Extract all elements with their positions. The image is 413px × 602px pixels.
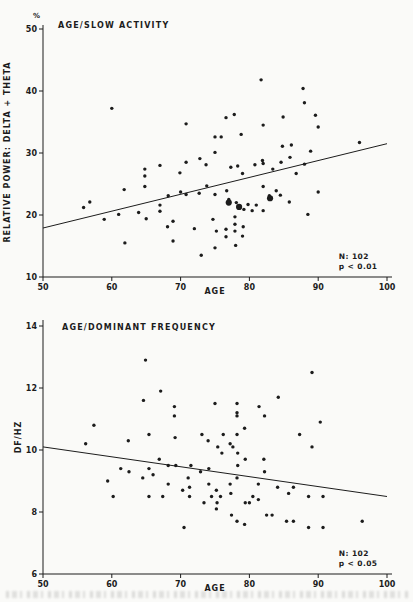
data-point (224, 116, 227, 119)
data-point (235, 201, 238, 204)
data-point (103, 218, 106, 221)
caption-fragment (6, 591, 409, 598)
data-point (141, 476, 144, 479)
data-point (202, 501, 205, 504)
data-point (288, 200, 291, 203)
x-tick-label: 80 (244, 283, 256, 292)
data-point (321, 526, 324, 529)
data-point (236, 451, 239, 454)
data-point (186, 476, 189, 479)
data-point (200, 254, 203, 257)
data-point (257, 498, 260, 501)
data-point (143, 185, 146, 188)
data-point (143, 174, 146, 177)
data-point (215, 501, 218, 504)
data-point (147, 467, 150, 470)
data-point (151, 473, 154, 476)
emphasis-data-point (226, 200, 232, 206)
data-point (179, 190, 182, 193)
x-tick-label: 90 (313, 283, 325, 292)
emphasis-data-point (236, 204, 242, 210)
data-point (173, 405, 176, 408)
p-annotation: p < 0.01 (339, 262, 378, 271)
data-point (184, 161, 187, 164)
data-point (239, 133, 242, 136)
data-point (259, 78, 262, 81)
data-point (205, 184, 208, 187)
data-point (233, 223, 236, 226)
data-point (167, 194, 170, 197)
data-point (181, 489, 184, 492)
data-point (279, 193, 282, 196)
data-point (111, 495, 114, 498)
x-axis-label: AGE (204, 287, 225, 296)
data-point (307, 495, 310, 498)
data-point (216, 445, 219, 448)
data-point (235, 476, 238, 479)
data-point (200, 433, 203, 436)
data-point (119, 467, 122, 470)
data-point (233, 113, 236, 116)
n-annotation: N: 102 (339, 549, 369, 558)
data-point (242, 225, 245, 228)
data-point (248, 501, 251, 504)
data-point (231, 445, 234, 448)
scatter-chart-dominant-frequency: 681012145060708090100AGE/DOMINANT FREQUE… (14, 320, 396, 593)
data-point (244, 501, 247, 504)
figure-canvas: 1020304050%5060708090100AGE/SLOW ACTIVIT… (0, 0, 413, 602)
data-point (213, 246, 216, 249)
data-point (287, 492, 290, 495)
data-point (321, 495, 324, 498)
data-point (158, 164, 161, 167)
data-point (143, 167, 146, 170)
data-point (213, 135, 216, 138)
data-point (233, 215, 236, 218)
data-point (263, 470, 266, 473)
data-point (117, 213, 120, 216)
n-annotation: N: 102 (339, 252, 369, 261)
regression-line (43, 447, 387, 497)
data-point (229, 492, 232, 495)
data-point (123, 241, 126, 244)
data-point (147, 495, 150, 498)
y-unit-label: % (33, 12, 40, 20)
data-point (142, 399, 145, 402)
data-point (292, 486, 295, 489)
data-point (262, 458, 265, 461)
data-point (211, 218, 214, 221)
data-point (158, 458, 161, 461)
y-axis-label: RELATIVE POWER: DELTA + THETA (3, 61, 12, 242)
data-point (159, 389, 162, 392)
data-point (188, 495, 191, 498)
x-tick-label: 70 (175, 283, 187, 292)
data-point (358, 141, 361, 144)
data-point (127, 439, 130, 442)
data-point (137, 211, 140, 214)
data-point (288, 156, 291, 159)
data-point (204, 163, 207, 166)
data-point (275, 189, 278, 192)
data-point (301, 87, 304, 90)
data-point (215, 489, 218, 492)
data-point (310, 445, 313, 448)
data-point (106, 479, 109, 482)
data-point (199, 470, 202, 473)
data-point (173, 414, 176, 417)
data-point (215, 507, 218, 510)
y-tick-label: 40 (26, 87, 38, 96)
data-point (243, 427, 246, 430)
data-point (82, 206, 85, 209)
data-point (243, 523, 246, 526)
data-point (261, 185, 264, 188)
data-point (215, 229, 218, 232)
data-point (230, 513, 233, 516)
y-tick-label: 10 (26, 446, 38, 455)
data-point (213, 402, 216, 405)
data-point (271, 167, 274, 170)
x-tick-label: 60 (106, 580, 118, 589)
data-point (235, 520, 238, 523)
y-axis-label: DF/HZ (14, 421, 23, 454)
data-point (276, 486, 279, 489)
data-point (253, 163, 256, 166)
data-point (234, 244, 237, 247)
